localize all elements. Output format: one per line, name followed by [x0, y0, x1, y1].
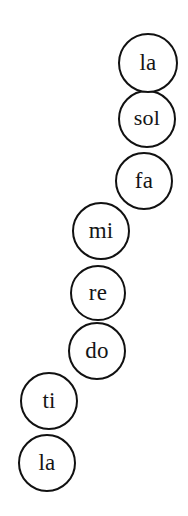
note-circle-fa-2[interactable]: fa: [115, 152, 173, 210]
note-label: re: [89, 281, 107, 304]
note-circle-do-5[interactable]: do: [68, 322, 126, 380]
note-circle-mi-3[interactable]: mi: [72, 202, 130, 260]
note-label: mi: [89, 219, 114, 242]
note-circle-ti-6[interactable]: ti: [20, 372, 78, 430]
note-circle-la-0[interactable]: la: [118, 33, 178, 93]
note-label: sol: [134, 107, 160, 129]
note-label: ti: [42, 389, 55, 412]
note-label: la: [39, 451, 56, 474]
note-label: la: [140, 51, 157, 74]
solfege-diagram-canvas: lasolfamiredotila: [0, 0, 188, 516]
note-label: fa: [135, 169, 153, 192]
note-label: do: [85, 339, 108, 362]
note-circle-re-4[interactable]: re: [70, 265, 126, 321]
note-circle-la-7[interactable]: la: [18, 434, 76, 492]
note-circle-sol-1[interactable]: sol: [118, 90, 176, 148]
